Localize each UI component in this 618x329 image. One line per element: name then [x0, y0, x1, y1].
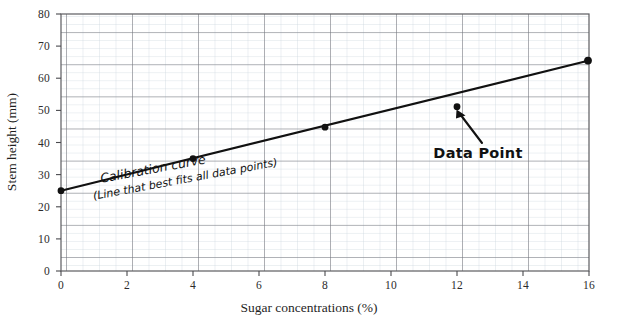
y-tick-label-60: 60	[24, 72, 50, 84]
data-point-marker	[454, 103, 461, 110]
y-tick-label-0: 0	[24, 265, 50, 277]
data-point-marker	[584, 57, 592, 65]
data-point-marker	[322, 124, 329, 131]
data-point-annotation-label: Data Point	[433, 145, 522, 161]
y-tick-label-30: 30	[24, 169, 50, 181]
y-tick-label-10: 10	[24, 233, 50, 245]
x-tick-label-8: 8	[322, 279, 328, 291]
y-tick-label-70: 70	[24, 40, 50, 52]
y-tick-label-50: 50	[24, 104, 50, 116]
x-tick-label-2: 2	[124, 279, 130, 291]
x-tick-label-12: 12	[451, 279, 463, 291]
x-axis-title: Sugar concentrations (%)	[240, 300, 377, 316]
grid-layer	[61, 14, 589, 271]
y-tick-label-80: 80	[24, 8, 50, 20]
y-axis-title: Stem height (mm)	[4, 93, 20, 191]
y-tick-label-20: 20	[24, 201, 50, 213]
x-tick-label-6: 6	[256, 279, 262, 291]
x-tick-label-10: 10	[385, 279, 397, 291]
chart-container: 0 10 20 30 40 50 60 70 80 0 2 4 6 8 10 1…	[0, 0, 618, 329]
y-tick-label-40: 40	[24, 137, 50, 149]
x-tick-label-14: 14	[517, 279, 529, 291]
x-tick-label-16: 16	[583, 279, 595, 291]
major-gridlines	[61, 14, 589, 271]
x-tick-label-4: 4	[190, 279, 196, 291]
data-point-marker	[58, 187, 65, 194]
x-tick-label-0: 0	[58, 279, 64, 291]
